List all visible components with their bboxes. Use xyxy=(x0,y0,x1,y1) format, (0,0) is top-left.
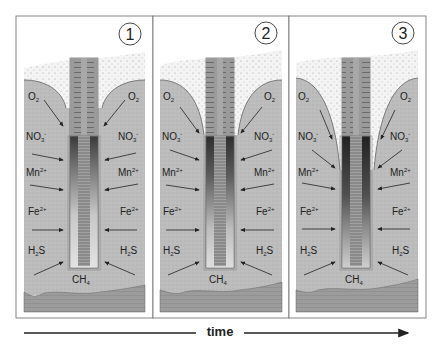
panel-1: 1 O2 NO3- Mn2+ Fe2+ H2S O2 NO3- Mn2+ Fe2… xyxy=(16,16,153,318)
panel-2: 2 O2 NO3- Mn2+ Fe2+ H2S O2 NO3- Mn2+ Fe2… xyxy=(153,16,289,318)
panel-3: 3 O2 NO3- Mn2+ Fe2+ H2S O2 NO3- Mn2+ Fe2… xyxy=(289,16,426,318)
saturated-zone-right xyxy=(102,80,145,295)
well xyxy=(340,58,372,270)
time-axis-label: time xyxy=(196,324,244,340)
well xyxy=(68,58,100,270)
panel-number: 1 xyxy=(126,26,135,43)
redox-well-diagram: 1 O2 NO3- Mn2+ Fe2+ H2S O2 NO3- Mn2+ Fe2… xyxy=(0,0,440,345)
well xyxy=(204,58,236,270)
panel-number: 3 xyxy=(399,25,408,42)
saturated-zone-right xyxy=(238,80,282,295)
panel-number: 2 xyxy=(262,25,271,42)
